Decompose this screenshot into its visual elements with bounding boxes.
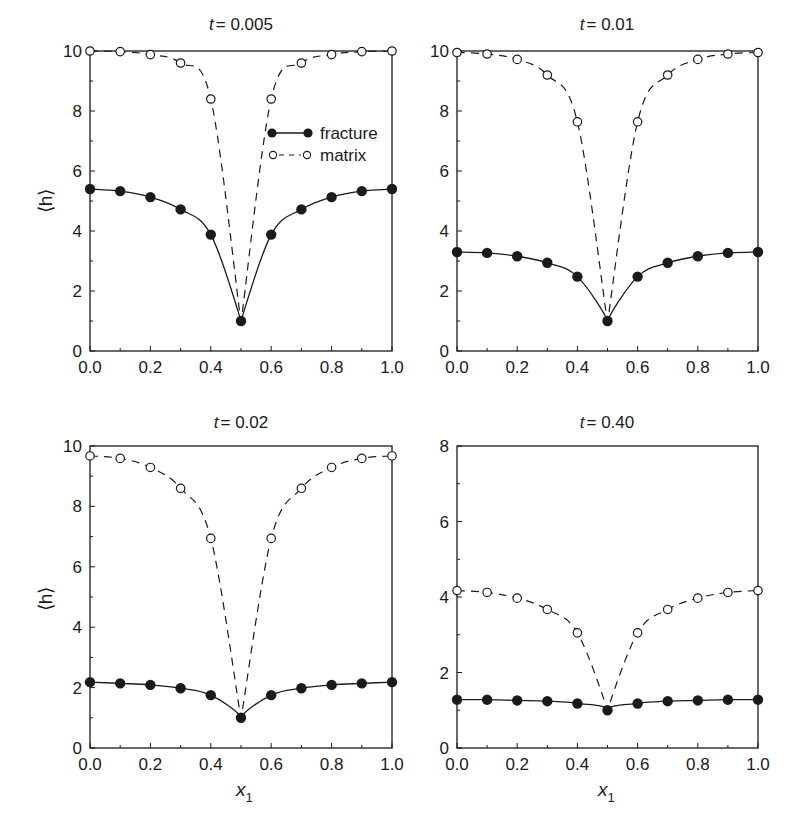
fracture-point [236, 713, 246, 723]
x-tick-label: 0.8 [686, 755, 710, 774]
matrix-point [297, 484, 305, 492]
matrix-point [543, 71, 551, 79]
tick-labels: 0.00.20.40.60.81.002468 [440, 437, 770, 774]
fracture-line [457, 252, 758, 321]
fracture-point [85, 184, 95, 194]
y-tick-label: 0 [440, 342, 449, 361]
x-tick-label: 0.4 [566, 755, 590, 774]
fracture-point [512, 251, 522, 261]
fracture-point [145, 192, 155, 202]
y-tick-label: 4 [440, 222, 449, 241]
panel-t-0.005: t= 0.005 0.00.20.40.60.81.00246810 ⟨h⟩ f… [35, 15, 404, 377]
matrix-point [327, 463, 335, 471]
y-tick-label: 6 [73, 162, 82, 181]
plot-frame [90, 51, 392, 351]
matrix-point [297, 59, 305, 67]
matrix-point [267, 534, 275, 542]
y-tick-label: 0 [440, 739, 449, 758]
fracture-point [266, 229, 276, 239]
figure: t= 0.005 0.00.20.40.60.81.00246810 ⟨h⟩ f… [0, 0, 791, 829]
y-axis-label: ⟨h⟩ [35, 189, 56, 214]
x-tick-label: 1.0 [746, 358, 770, 377]
x-axis-label: x1 [235, 779, 253, 805]
y-tick-label: 0 [73, 739, 82, 758]
matrix-point [453, 48, 461, 56]
panel-t-0.02: t= 0.02 0.00.20.40.60.81.00246810 ⟨h⟩ x1 [35, 413, 404, 805]
x-tick-label: 1.0 [746, 755, 770, 774]
fracture-point [206, 690, 216, 700]
fracture-point [296, 204, 306, 214]
y-axis-label: ⟨h⟩ [35, 587, 56, 612]
matrix-point [483, 50, 491, 58]
y-tick-label: 4 [73, 618, 82, 637]
y-tick-label: 8 [73, 497, 82, 516]
matrix-point [86, 452, 94, 460]
matrix-point [358, 454, 366, 462]
x-tick-label: 0.6 [259, 755, 283, 774]
fracture-point [236, 316, 246, 326]
x-tick-label: 0.8 [686, 358, 710, 377]
fracture-point [602, 705, 612, 715]
matrix-point [146, 463, 154, 471]
y-tick-label: 2 [73, 282, 82, 301]
y-tick-label: 6 [73, 558, 82, 577]
tick-labels: 0.00.20.40.60.81.00246810 [63, 437, 404, 774]
x-tick-label: 0.8 [320, 755, 344, 774]
matrix-point [754, 48, 762, 56]
matrix-point [207, 95, 215, 103]
legend-fracture-label: fracture [320, 124, 378, 143]
legend: fracture matrix [267, 124, 377, 165]
fracture-point [693, 695, 703, 705]
y-tick-label: 8 [73, 102, 82, 121]
fracture-point [663, 258, 673, 268]
matrix-point [176, 484, 184, 492]
plot-frame [90, 446, 392, 748]
fracture-point [482, 248, 492, 258]
matrix-point [483, 588, 491, 596]
matrix-point [388, 47, 396, 55]
matrix-series [453, 48, 762, 321]
fracture-point [482, 694, 492, 704]
matrix-line [457, 53, 758, 322]
y-tick-label: 4 [440, 588, 449, 607]
fracture-point [357, 186, 367, 196]
fracture-line [90, 189, 392, 321]
panel-t-0.01: t= 0.01 0.00.20.40.60.81.00246810 [430, 15, 770, 377]
tick-labels: 0.00.20.40.60.81.00246810 [63, 42, 404, 377]
y-tick-label: 8 [440, 437, 449, 456]
fracture-point [175, 683, 185, 693]
panel-title: t= 0.005 [209, 15, 273, 34]
matrix-legend-marker [269, 151, 276, 158]
fracture-point [572, 698, 582, 708]
fracture-point [753, 694, 763, 704]
fracture-point [723, 694, 733, 704]
matrix-point [664, 605, 672, 613]
panel-title: t= 0.02 [214, 413, 268, 432]
fracture-point [542, 696, 552, 706]
axes [457, 446, 758, 748]
y-tick-label: 6 [440, 513, 449, 532]
fracture-point [115, 186, 125, 196]
fracture-legend-marker [267, 128, 276, 137]
matrix-point [513, 594, 521, 602]
x-tick-label: 0.2 [139, 358, 163, 377]
x-tick-label: 0.2 [139, 755, 163, 774]
matrix-line [90, 456, 392, 718]
matrix-point [176, 59, 184, 67]
matrix-series [453, 586, 762, 710]
x-tick-label: 0.6 [626, 358, 650, 377]
matrix-point [754, 586, 762, 594]
fracture-point [357, 678, 367, 688]
matrix-point [573, 118, 581, 126]
fracture-point [387, 184, 397, 194]
axes [90, 446, 392, 748]
fracture-point [175, 204, 185, 214]
y-tick-label: 10 [63, 42, 82, 61]
matrix-point [724, 50, 732, 58]
fracture-point [326, 192, 336, 202]
matrix-point [513, 55, 521, 63]
x-tick-label: 1.0 [380, 755, 404, 774]
fracture-point [632, 698, 642, 708]
x-tick-label: 0.6 [259, 358, 283, 377]
matrix-point [86, 47, 94, 55]
